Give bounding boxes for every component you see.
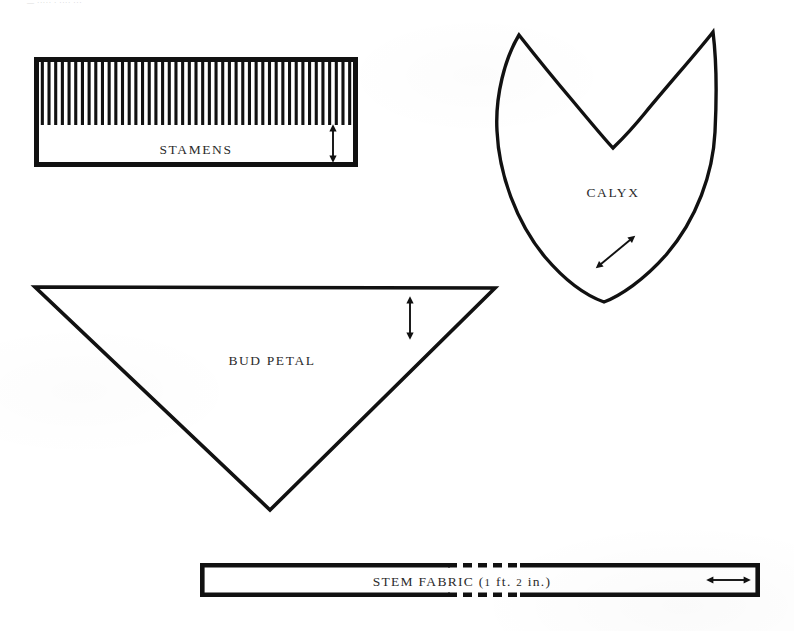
calyx-outline xyxy=(497,32,716,302)
stem-fabric-inches-unit: in.) xyxy=(523,574,551,589)
stamens-label: STAMENS xyxy=(159,142,232,158)
stem-fabric-label: STEM FABRIC (1 ft. 2 in.) xyxy=(373,574,552,590)
stem-fabric-feet-value: 1 xyxy=(485,576,492,588)
pattern-sheet-page: — ····· · ···· ··· xyxy=(0,0,794,631)
bud-petal-outline xyxy=(35,287,495,510)
stamens-comb-teeth xyxy=(42,60,349,125)
calyx-label: CALYX xyxy=(586,185,639,201)
piece-calyx[interactable] xyxy=(497,32,716,302)
stem-fabric-feet-unit: ft. xyxy=(491,574,516,589)
pattern-drawing-canvas xyxy=(0,0,794,631)
piece-bud-petal[interactable] xyxy=(35,287,495,510)
stem-fabric-label-prefix: STEM FABRIC ( xyxy=(373,574,485,589)
bud-petal-label: BUD PETAL xyxy=(228,353,315,369)
